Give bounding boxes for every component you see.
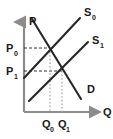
figure-background <box>0 0 113 139</box>
price-label-p1: P <box>6 65 13 77</box>
price-label-p0: P <box>6 42 13 54</box>
price-axis-label: P <box>29 15 36 27</box>
supply-curve-s1-label: S <box>92 34 99 46</box>
demand-curve-d-label: D <box>87 83 95 95</box>
price-label-p0-subscript: 0 <box>14 50 18 57</box>
quantity-axis-label: Q <box>103 106 112 118</box>
quantity-label-q1-subscript: 1 <box>66 126 70 133</box>
price-label-p1-subscript: 1 <box>14 73 18 80</box>
quantity-label-q0-subscript: 0 <box>50 126 54 133</box>
supply-curve-s0-label: S <box>84 6 91 18</box>
supply-curve-s1-label-subscript: 1 <box>100 42 104 49</box>
supply-demand-figure: P Q S 0 S 1 D P 0 P 1 Q 0 Q 1 <box>0 0 113 139</box>
supply-curve-s0-label-subscript: 0 <box>92 14 96 21</box>
